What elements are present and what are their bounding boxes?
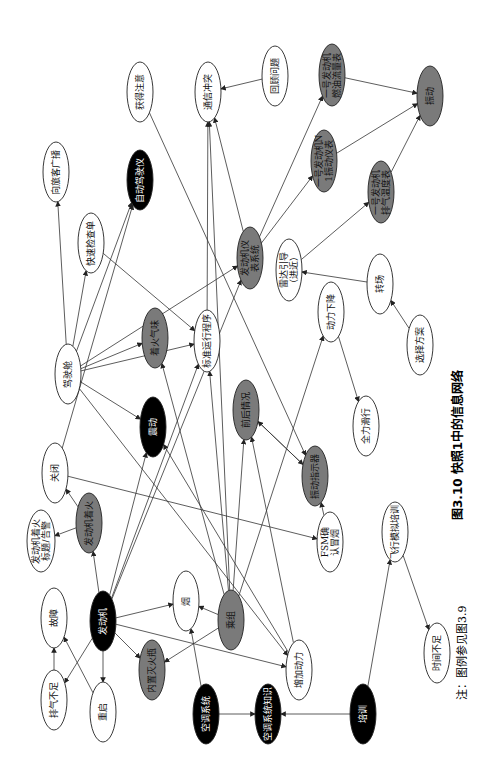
edge-arrow	[110, 453, 147, 595]
node-label: 标准运行程序	[201, 314, 212, 368]
node-label: 前后情况	[240, 392, 251, 428]
edge-arrow	[66, 489, 78, 507]
information-network-diagram: 获得注意通信冲突回顾问题一号发动机燃油流量表振动一号发动机N1振动仪表一号发动机…	[0, 0, 497, 781]
node-label: 乘组	[225, 611, 236, 629]
edge-arrow	[258, 421, 303, 464]
node-label: 一号发动机N1振动仪表	[313, 134, 334, 187]
edge-arrow	[221, 79, 262, 89]
node-label: 全力滑行	[360, 408, 371, 444]
diagram-node: 一号发动机燃油流量表	[319, 44, 345, 106]
node-label: 自动驾驶仪	[134, 158, 145, 203]
node-label: 着火气味	[149, 320, 160, 356]
diagram-node: 增加动力	[286, 640, 312, 700]
diagram-node: 烟	[173, 571, 199, 631]
diagram-node: 回顾问题	[262, 46, 288, 106]
node-label: 振动指示器	[309, 454, 320, 499]
node-label: 回顾问题	[269, 58, 280, 94]
edge-arrow	[81, 343, 142, 368]
edge-arrow	[391, 301, 409, 329]
diagram-node: 飞行模拟培训	[382, 502, 408, 562]
edge-arrow	[252, 437, 294, 643]
edge-arrow	[58, 202, 66, 345]
edge-arrow	[93, 551, 99, 592]
figure-note: 注：图例参见图3.9	[455, 606, 469, 701]
edge-arrow	[368, 560, 390, 686]
node-label: 一号发动机燃油流量表	[321, 53, 342, 98]
node-label: 培训	[357, 705, 368, 723]
edge-arrow	[64, 637, 93, 693]
diagram-node: 关闭	[42, 443, 68, 503]
diagram-node: 全力滑行	[353, 396, 379, 456]
node-label: 动力下降	[325, 294, 336, 330]
node-label: 快速检查单	[85, 221, 96, 266]
node-label: 选择方案	[414, 327, 425, 363]
node-label: 关闭	[49, 464, 60, 482]
diagram-node: 雷达引导（进近）	[276, 239, 302, 301]
diagram-node: 动力下降	[318, 282, 344, 342]
node-label: 故障	[48, 609, 59, 627]
node-label: 转场	[374, 275, 385, 293]
diagram-node: 驾驶舱	[55, 344, 81, 404]
node-label: FSM确认冒烟	[319, 527, 340, 558]
diagram-node: 一号发动机N1振动仪表	[311, 130, 337, 192]
edge-arrow	[345, 78, 417, 93]
diagram-node: 乘组	[218, 590, 244, 650]
edge-arrow	[68, 476, 317, 539]
node-label: 通信冲突	[202, 74, 213, 110]
node-label: 重启	[97, 703, 108, 721]
edge-arrow	[191, 629, 201, 686]
edge-arrow	[81, 382, 141, 419]
node-label: 雷达引导（进近）	[278, 252, 299, 288]
node-label: 飞行模拟培训	[389, 505, 400, 559]
figure-caption: 图3.10 快照1中的信息网络	[450, 370, 465, 520]
node-label: 发动机着火	[83, 501, 94, 546]
edge-arrow	[403, 555, 429, 629]
edge-arrow	[321, 503, 324, 516]
edge-arrow	[199, 606, 218, 614]
diagram-node: 通信冲突	[195, 62, 221, 122]
diagram-node: 故障	[41, 588, 67, 648]
diagram-node: 选择方案	[407, 315, 433, 375]
node-layer: 获得注意通信冲突回顾问题一号发动机燃油流量表振动一号发动机N1振动仪表一号发动机…	[27, 44, 450, 744]
diagram-node: 培训	[350, 684, 376, 744]
node-label: 振动	[424, 87, 435, 105]
node-label: 烟	[180, 597, 191, 606]
edge-arrow	[207, 122, 208, 310]
diagram-node: 快速检查单	[78, 213, 104, 273]
edge-arrow	[215, 118, 244, 232]
diagram-node: 空调系统知识	[255, 684, 281, 744]
edge-arrow	[261, 176, 312, 243]
node-label: 驾驶舱	[62, 361, 73, 388]
edge-arrow	[337, 104, 418, 154]
node-label: 发动机	[97, 608, 108, 635]
diagram-node: 获得注意	[127, 62, 153, 122]
node-label: 一号发动机排气温度表	[370, 170, 391, 215]
diagram-node: 转场	[367, 254, 393, 314]
diagram-node: 发动机着火标题/告警	[27, 510, 55, 572]
edge-arrow	[116, 604, 173, 618]
node-label: 时间不足	[431, 635, 442, 671]
edge-arrow	[233, 440, 244, 591]
diagram-node: 内置灭火瓶	[139, 640, 165, 700]
node-label: 空调系统	[200, 696, 211, 732]
node-label: 震动	[148, 418, 158, 436]
diagram-node: 排气不足	[41, 670, 67, 730]
diagram-node: 自动驾驶仪	[127, 150, 153, 210]
edge-arrow	[112, 280, 241, 599]
diagram-node: 发动机	[90, 591, 116, 651]
diagram-node: FSM确认冒烟	[317, 512, 343, 572]
node-label: 空调系统知识	[262, 687, 273, 741]
node-label: 发动机仪表系统	[239, 240, 260, 276]
edge-arrow	[65, 638, 93, 683]
diagram-node: 振动	[417, 66, 443, 126]
diagram-node: 发动机着火	[76, 493, 102, 553]
diagram-node: 震动	[140, 397, 166, 457]
diagram-node: 着火气味	[142, 308, 168, 368]
edge-arrow	[301, 202, 369, 259]
diagram-node: 一号发动机排气温度表	[368, 161, 394, 223]
node-label: 内置灭火瓶	[146, 648, 157, 693]
node-label: 排气不足	[48, 682, 59, 718]
node-label: 向旅客广播	[50, 150, 61, 195]
diagram-node: 向旅客广播	[43, 142, 69, 202]
diagram-node: 重启	[90, 682, 116, 742]
